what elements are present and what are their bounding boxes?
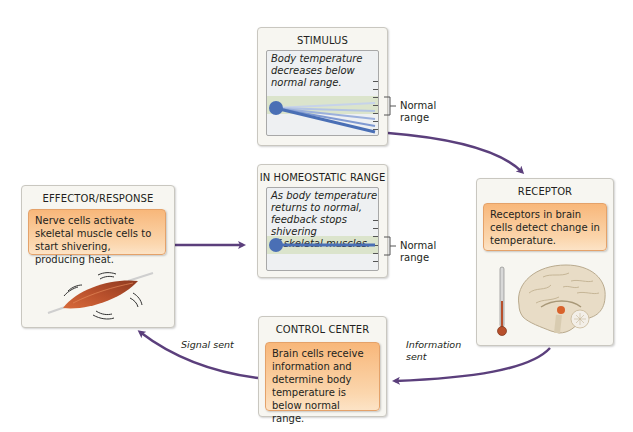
- brain-icon: [519, 265, 606, 333]
- temperature-marker-icon: [269, 238, 283, 252]
- homeostatic-graph: As body temperature returns to normal, f…: [266, 187, 379, 271]
- effector-description: Nerve cells activate skeletal muscle cel…: [28, 209, 166, 255]
- effector-title: EFFECTOR/RESPONSE: [22, 193, 174, 204]
- receptor-title: RECEPTOR: [477, 186, 613, 197]
- stimulus-title: STIMULUS: [258, 35, 387, 46]
- shivering-muscle-icon: [38, 263, 158, 323]
- homeostatic-normal-range-label: Normal range: [400, 240, 436, 264]
- thermometer-icon: [498, 267, 507, 336]
- signal-sent-label: Signal sent: [181, 339, 234, 351]
- control-center-description: Brain cells receive information and dete…: [265, 342, 380, 411]
- stimulus-normal-range-label: Normal range: [400, 100, 436, 124]
- homeostatic-card: IN HOMEOSTATIC RANGE As body temperature…: [257, 164, 388, 278]
- stimulus-card: STIMULUS Body temperature decreases belo…: [257, 27, 388, 146]
- brain-thermometer-illustration: [481, 253, 611, 343]
- temperature-marker-icon: [269, 101, 283, 115]
- homeostatic-title: IN HOMEOSTATIC RANGE: [258, 172, 387, 183]
- temperature-steady-line: [267, 188, 378, 270]
- control-center-card: CONTROL CENTER Brain cells receive infor…: [258, 316, 387, 417]
- receptor-description: Receptors in brain cells detect change i…: [483, 203, 607, 251]
- information-sent-label: Information sent: [406, 339, 461, 363]
- stimulus-graph: Body temperature decreases below normal …: [266, 50, 379, 136]
- control-center-title: CONTROL CENTER: [259, 324, 386, 335]
- temperature-decline-lines: [267, 51, 378, 135]
- effector-card: EFFECTOR/RESPONSE Nerve cells activate s…: [21, 185, 175, 328]
- receptor-card: RECEPTOR Receptors in brain cells detect…: [476, 178, 614, 346]
- arrow-stimulus-to-receptor: [388, 133, 522, 172]
